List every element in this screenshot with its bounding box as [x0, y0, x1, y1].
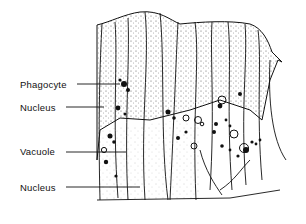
label-nucleus-top: Nucleus	[20, 102, 56, 113]
label-nucleus-bottom: Nucleus	[20, 182, 56, 193]
label-vacuole: Vacuole	[20, 146, 55, 157]
label-phagocyte: Phagocyte	[20, 79, 67, 90]
